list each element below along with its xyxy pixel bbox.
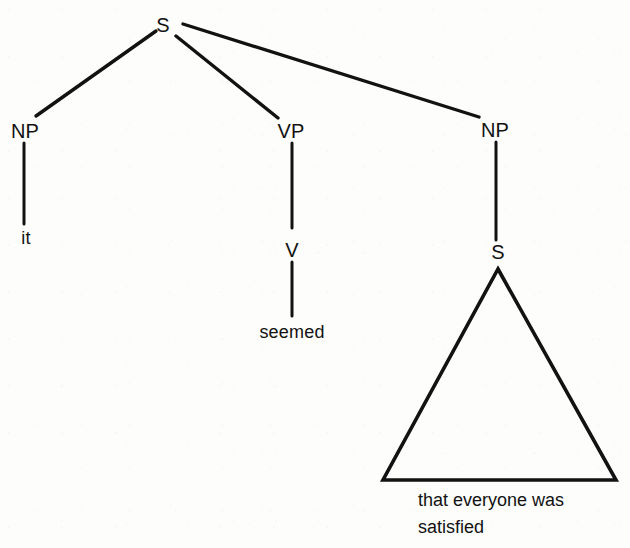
terminal-seemed: seemed bbox=[259, 322, 324, 343]
terminal-it: it bbox=[21, 228, 30, 249]
node-object-np: NP bbox=[481, 119, 509, 142]
syntax-tree-figure: S NP it VP V seemed NP S that everyone w… bbox=[0, 0, 630, 548]
node-subject-np: NP bbox=[11, 120, 39, 143]
tree-branch-canvas bbox=[0, 0, 630, 548]
node-v: V bbox=[285, 239, 299, 262]
ellipsis-triangle bbox=[383, 269, 616, 480]
branch-s-to-subject-np bbox=[36, 31, 156, 116]
triangle-phrase-text: that everyone was satisfied bbox=[418, 487, 564, 541]
node-embedded-s: S bbox=[491, 241, 505, 264]
node-root-s: S bbox=[156, 14, 170, 37]
node-vp: VP bbox=[277, 120, 304, 143]
branch-s-to-object-np bbox=[183, 24, 479, 117]
